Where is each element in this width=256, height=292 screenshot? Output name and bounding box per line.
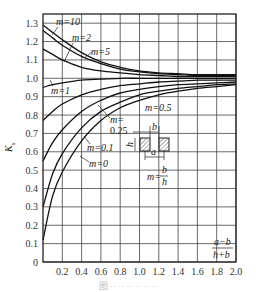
cross-section-inset: b h a — [124, 121, 169, 160]
x-tick-label: 0.8 — [114, 266, 127, 277]
y-tick-label: 0 — [33, 257, 38, 268]
y-axis-label: Ks — [3, 142, 17, 153]
y-tick-label: 1.3 — [26, 18, 39, 29]
svg-text:h: h — [162, 176, 167, 187]
inset-label-b: b — [152, 121, 157, 132]
y-tick-label: 0.3 — [26, 201, 39, 212]
y-tick-label: 0.4 — [26, 183, 39, 194]
x-tick-label: 1.0 — [133, 266, 146, 277]
y-tick-label: 0.7 — [26, 128, 39, 139]
y-tick-label: 1.0 — [26, 73, 39, 84]
figure-caption: 图 ·· ·· ·· ·· ·· ·· — [0, 279, 256, 292]
svg-text:a−b: a−b — [214, 236, 231, 247]
x-tick-label: 2.0 — [230, 266, 243, 277]
label-m2: m=2 — [72, 32, 91, 43]
x-tick-label: 1.8 — [210, 266, 223, 277]
label-m1: m=1 — [51, 85, 70, 96]
x-tick-label: 0.6 — [95, 266, 108, 277]
x-tick-label: 0.4 — [75, 266, 88, 277]
x-tick-label: 0.2 — [56, 266, 69, 277]
svg-text:h+b: h+b — [213, 249, 230, 260]
y-tick-label: 0.9 — [26, 91, 39, 102]
y-tick-label: 1.1 — [26, 54, 39, 65]
svg-text:b: b — [162, 164, 167, 175]
y-tick-label: 0.1 — [26, 238, 39, 249]
y-tick-label: 0.2 — [26, 220, 39, 231]
x-tick-label: 1.4 — [172, 266, 185, 277]
inset-label-a: a — [151, 146, 156, 157]
y-tick-label: 1.2 — [26, 36, 39, 47]
label-m025-value: 0.25 — [110, 125, 128, 136]
m-definition: m= b h — [147, 164, 168, 187]
svg-text:m=: m= — [147, 171, 161, 182]
label-m10: m=10 — [56, 16, 80, 27]
y-tick-label: 0.5 — [26, 165, 39, 176]
label-m05: m=0.5 — [145, 102, 171, 113]
x-tick-label: 1.2 — [153, 266, 166, 277]
label-m01: m=0.1 — [87, 142, 113, 153]
y-tick-label: 0.6 — [26, 146, 39, 157]
inset-label-h: h — [124, 142, 135, 147]
x-tick-label: 1.6 — [191, 266, 204, 277]
label-m0: m=0 — [89, 158, 108, 169]
label-m025: m= — [110, 114, 124, 125]
x-axis-label: a−b h+b — [212, 236, 233, 260]
y-tick-label: 0.8 — [26, 110, 39, 121]
label-m5: m=5 — [91, 46, 110, 57]
